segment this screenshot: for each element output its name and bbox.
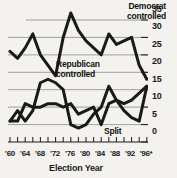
chart-container: 35 30 25 20 15 10 5 0 '60 '64 '68 '72 '7… (0, 0, 177, 178)
ytick-label-5: 5 (152, 110, 157, 119)
series-label-democrat: Democrat controlled (96, 2, 166, 21)
xtick-label-1996: '96* (134, 150, 158, 158)
ytick-label-10: 10 (152, 92, 162, 101)
ytick-label-25: 25 (152, 40, 162, 49)
x-axis (8, 137, 148, 142)
series-label-democrat-line2: controlled (127, 11, 166, 21)
y-axis-ticks (141, 20, 148, 142)
ytick-label-20: 20 (152, 57, 162, 66)
series-line-split (10, 86, 147, 124)
ytick-label-0: 0 (152, 127, 157, 136)
series-label-republican-line1: Republican (56, 59, 100, 69)
series-label-split: Split (104, 127, 138, 137)
series-label-republican: Republican controlled (56, 60, 118, 79)
ytick-label-15: 15 (152, 75, 162, 84)
ytick-label-30: 30 (152, 22, 162, 31)
series-label-democrat-line1: Democrat (128, 1, 166, 11)
x-axis-title: Election Year (0, 163, 152, 173)
series-label-republican-line2: controlled (56, 69, 95, 79)
